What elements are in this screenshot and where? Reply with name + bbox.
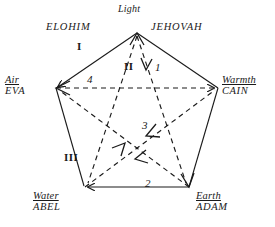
edge-marker-iii: III bbox=[64, 152, 78, 164]
vertex-person-cain: CAIN bbox=[222, 85, 256, 96]
vertex-label-warmth: Warmth CAIN bbox=[222, 74, 256, 97]
edge-air-to-water bbox=[56, 88, 84, 186]
vertex-person-abel: ABEL bbox=[33, 201, 60, 212]
diagonal-water-to-warmth bbox=[85, 90, 215, 187]
vertex-person-eva: EVA bbox=[5, 85, 25, 96]
edge-warmth-to-light bbox=[137, 33, 218, 88]
vertex-element-air: Air bbox=[5, 74, 25, 85]
diagonal-light-to-earth bbox=[137, 36, 186, 183]
arrowhead-toward-center bbox=[146, 124, 160, 137]
edge-marker-1: 1 bbox=[155, 62, 161, 74]
vertex-label-light: Light bbox=[118, 4, 140, 15]
name-label-jehovah: JEHOVAH bbox=[151, 21, 202, 32]
vertex-element-earth: Earth bbox=[196, 190, 228, 201]
edge-marker-2: 2 bbox=[145, 178, 151, 190]
diagonal-light-to-water bbox=[88, 36, 137, 183]
pentagon-outline bbox=[56, 33, 218, 187]
diagonal-earth-to-air bbox=[59, 90, 189, 187]
vertex-label-water: Water ABEL bbox=[33, 190, 60, 213]
arrowhead-into-light bbox=[130, 33, 144, 45]
vertex-element-water: Water bbox=[33, 190, 60, 201]
name-label-elohim: ELOHIM bbox=[46, 21, 90, 32]
vertex-label-earth: Earth ADAM bbox=[196, 190, 228, 213]
edge-marker-ii: II bbox=[124, 61, 134, 73]
arrowhead-from-water bbox=[112, 143, 125, 156]
edge-marker-4: 4 bbox=[87, 74, 93, 86]
pentagram-diagonals bbox=[56, 36, 215, 187]
edge-warmth-to-earth bbox=[189, 88, 218, 187]
vertex-person-adam: ADAM bbox=[196, 201, 228, 212]
flow-arrowheads bbox=[56, 33, 194, 187]
edge-marker-i: I bbox=[77, 41, 82, 53]
arrowhead-earth-to-air bbox=[135, 150, 148, 163]
pentagram-diagram: Light ELOHIM JEHOVAH Air EVA Warmth CAIN… bbox=[0, 0, 275, 227]
vertex-label-air: Air EVA bbox=[5, 74, 25, 97]
edge-marker-3: 3 bbox=[142, 120, 148, 132]
vertex-element-warmth: Warmth bbox=[222, 74, 256, 85]
